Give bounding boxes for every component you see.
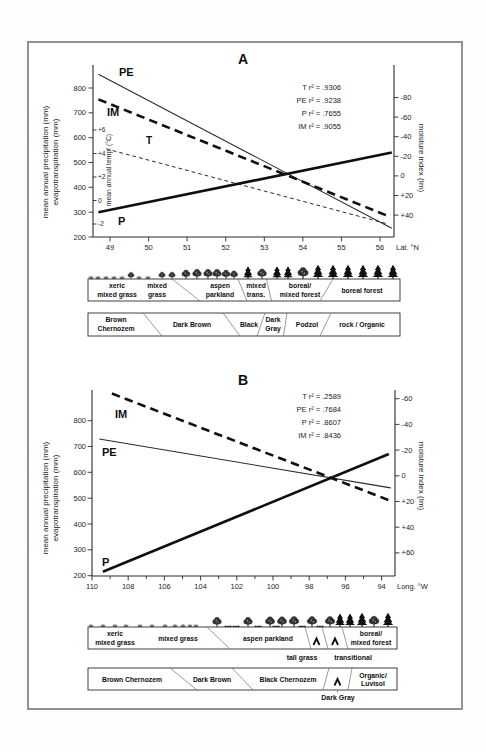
a-series-pe-label: PE [119, 66, 134, 78]
b-x-tick-label: 96 [341, 582, 349, 591]
a-veg-zone-label: mixed forest [280, 291, 321, 298]
a-soil-zone-label: Dark Brown [173, 321, 211, 328]
b-right-axis-label: moisture index (Im) [417, 442, 426, 511]
b-soil-zone-label: Luvisol [361, 680, 385, 687]
a-series-im-label: IM [107, 106, 119, 118]
b-x-tick-label: 98 [305, 582, 313, 591]
b-soil-zone-label: Brown Chernozem [102, 676, 162, 683]
a-left-tick-label: 400 [73, 183, 86, 192]
a-left-axis-label-1: mean annual precipitation (mm) [41, 105, 50, 218]
b-x-tick-label: 102 [231, 582, 244, 591]
a-left-tick-label: 600 [73, 133, 86, 142]
a-x-tick-label: 56 [376, 243, 384, 252]
b-soil-zone-label: Dark Brown [193, 676, 231, 683]
b-left-axis-label-2: evapotranspiration (mm) [51, 454, 60, 541]
b-x-tick-label: 110 [86, 582, 98, 591]
a-veg-zone-label: aspen [210, 282, 230, 290]
a-soil-zone-label: Podzol [296, 321, 318, 328]
a-veg-zone-label: grass [148, 291, 166, 299]
b-veg-callout-transitional: transitional [334, 654, 372, 661]
a-legend-line: T r² = .9306 [302, 83, 341, 92]
b-series-p-label: P [102, 556, 109, 568]
b-left-tick-label: 200 [73, 571, 86, 580]
a-right-tick-label: -60 [401, 113, 412, 122]
a-series-t-label: T [146, 135, 152, 146]
b-legend-line: T r² = .2589 [302, 392, 341, 401]
a-right-tick-label: 0 [401, 171, 405, 180]
a-soil-zone-label: Black [240, 321, 258, 328]
panel-a-vegetation-band: xeric mixed grass mixed grass aspen park… [88, 279, 400, 301]
b-left-tick-label: 500 [73, 494, 86, 503]
a-left-axis-label-2: evapotranspiration (mm) [51, 118, 60, 205]
a-right-tick-label: -40 [401, 132, 412, 141]
b-left-axis-label-1: mean annual precipitation (mm) [41, 441, 50, 554]
figure-canvas: A 800 700 600 500 400 300 200 mean annua… [27, 41, 463, 710]
a-series-p-label: P [118, 215, 125, 227]
b-right-tick-label: +60 [402, 548, 415, 557]
a-x-tick-label: 53 [260, 243, 268, 252]
b-soil-zone-label: Organic/ [359, 672, 387, 680]
b-veg-zone-label: xeric [107, 630, 123, 637]
a-veg-zone-label: mixed [147, 282, 167, 289]
b-right-tick-label: 0 [402, 471, 406, 480]
b-left-tick-label: 800 [73, 416, 86, 425]
b-right-tick-label: +20 [402, 497, 415, 506]
a-x-tick-label: 50 [144, 243, 152, 252]
a-x-tick-label: 52 [222, 243, 230, 252]
a-right-tick-label: -20 [401, 152, 412, 161]
a-legend-line: IM r² = .9055 [298, 122, 341, 131]
b-right-tick-label: -60 [402, 394, 413, 403]
panel-a-title: A [238, 51, 248, 67]
a-x-tick-label: 51 [183, 243, 191, 252]
a-soil-zone-label: Chernozem [97, 325, 134, 332]
a-soil-zone-label: Gray [265, 325, 281, 333]
a-veg-zone-label: boreal/ [289, 282, 311, 289]
a-left-tick-label: 700 [73, 108, 86, 117]
b-left-tick-label: 300 [73, 545, 86, 554]
b-x-tick-label: 104 [194, 582, 207, 591]
b-left-tick-label: 700 [73, 442, 86, 451]
a-veg-zone-label: boreal forest [341, 287, 383, 294]
figure-page: A 800 700 600 500 400 300 200 mean annua… [0, 0, 486, 752]
a-soil-zone-label: Dark [265, 316, 280, 323]
b-veg-zone-label: boreal/ [360, 630, 382, 637]
a-right-axis-label: moisture index (Im) [417, 124, 426, 193]
a-temp-tick-label: +6 [98, 126, 106, 133]
b-series-pe-label: PE [102, 446, 117, 458]
a-temp-axis-label: mean annual temp. (°C) [105, 134, 113, 206]
a-right-tick-label: -80 [401, 93, 412, 102]
b-left-tick-label: 600 [73, 468, 86, 477]
b-x-tick-label: 94 [377, 582, 385, 591]
a-right-tick-label: +40 [401, 211, 414, 220]
b-soil-callout-dark-gray: Dark Gray [321, 694, 355, 702]
b-right-tick-label: -40 [402, 420, 413, 429]
b-right-tick-label: +40 [402, 523, 415, 532]
a-left-tick-label: 500 [73, 158, 86, 167]
b-right-tick-label: -20 [402, 446, 413, 455]
panel-b-title: B [238, 372, 248, 388]
b-veg-zone-label: mixed forest [351, 639, 392, 646]
b-veg-zone-label: mixed grass [95, 639, 135, 647]
a-x-tick-label: 49 [106, 243, 114, 252]
b-veg-zone-label: mixed grass [158, 635, 198, 643]
a-soil-zone-label: Brown [105, 316, 126, 323]
b-x-axis-label: Long. °W [397, 582, 429, 591]
a-legend-line: P r² = .7655 [302, 109, 341, 118]
a-veg-zone-label: mixed [246, 282, 266, 289]
b-legend-line: P r² = .8607 [302, 418, 341, 427]
a-veg-zone-label: xeric [109, 282, 125, 289]
b-soil-zone-label: Black Chernozem [259, 676, 316, 683]
a-temp-tick-label: 0 [98, 197, 102, 204]
b-x-tick-label: 106 [158, 582, 171, 591]
b-series-im-label: IM [115, 408, 127, 420]
a-x-axis-label: Lat. °N [396, 243, 419, 252]
b-x-tick-label: 100 [267, 582, 280, 591]
a-veg-zone-label: parkland [206, 291, 234, 299]
b-veg-zone-label: aspen parkland [243, 635, 293, 643]
a-temp-tick-label: -2 [98, 220, 104, 227]
a-veg-zone-label: mixed grass [97, 291, 137, 299]
b-x-tick-label: 108 [122, 582, 135, 591]
a-left-tick-label: 800 [73, 84, 86, 93]
a-soil-zone-label: rock / Organic [339, 321, 385, 329]
b-legend-line: IM r² = .8436 [298, 431, 341, 440]
